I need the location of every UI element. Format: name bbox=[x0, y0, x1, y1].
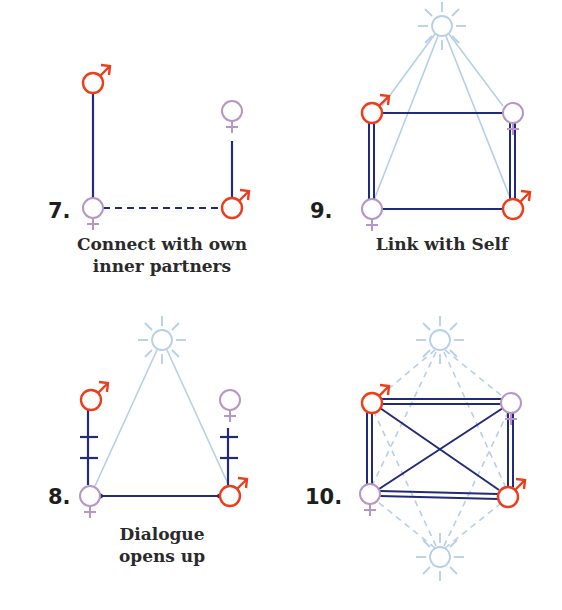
male-symbol-icon bbox=[362, 95, 389, 123]
female-symbol-icon bbox=[503, 103, 523, 135]
male-symbol-icon bbox=[83, 65, 110, 93]
sun-self-icon bbox=[138, 316, 186, 364]
solid-links bbox=[369, 113, 515, 209]
panel-caption-line: Dialogue bbox=[119, 524, 204, 544]
solid-links bbox=[367, 399, 513, 499]
panel-8: 8. Dialogue opens up bbox=[48, 316, 247, 566]
panel-9: 9. Link with Self bbox=[310, 2, 530, 254]
male-symbol-icon bbox=[222, 190, 249, 218]
male-symbol-icon bbox=[498, 479, 525, 507]
sun-self-icon bbox=[416, 316, 464, 364]
female-symbol-icon bbox=[83, 198, 103, 230]
female-symbol-icon bbox=[360, 484, 380, 516]
female-symbol-icon bbox=[80, 486, 100, 518]
panel-caption-line: opens up bbox=[119, 546, 205, 566]
male-symbol-icon bbox=[81, 382, 108, 410]
female-symbol-icon bbox=[220, 390, 240, 422]
panel-number: 8. bbox=[48, 485, 71, 509]
sun-self-icon bbox=[416, 533, 464, 581]
panel-caption-line: inner partners bbox=[93, 256, 231, 276]
panel-number: 10. bbox=[305, 485, 342, 509]
panel-10: 10. bbox=[305, 316, 525, 581]
relationship-diagram: 7. Connect with own inner partners 9. Li… bbox=[0, 0, 562, 610]
female-symbol-icon bbox=[222, 101, 242, 133]
panel-caption-line: Connect with own bbox=[77, 234, 247, 254]
female-symbol-icon bbox=[501, 393, 521, 425]
sun-self-icon bbox=[418, 2, 466, 50]
male-symbol-icon bbox=[503, 191, 530, 219]
self-links bbox=[374, 34, 511, 200]
panel-caption-line: Link with Self bbox=[376, 234, 510, 254]
panel-7: 7. Connect with own inner partners bbox=[48, 65, 249, 276]
self-links bbox=[95, 350, 229, 486]
male-symbol-icon bbox=[220, 478, 247, 506]
panel-number: 7. bbox=[48, 199, 71, 223]
panel-number: 9. bbox=[310, 199, 333, 223]
female-symbol-icon bbox=[362, 199, 382, 231]
barred-links bbox=[80, 410, 238, 485]
